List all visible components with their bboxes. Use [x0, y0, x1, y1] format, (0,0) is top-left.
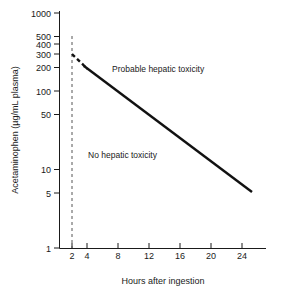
- y-tick-label-50: 50: [41, 110, 51, 120]
- x-tick-label-2: 2: [69, 251, 74, 261]
- nomogram-figure: 1000 500 400 300 200 100 50 10 5 1 2 4 8…: [0, 0, 281, 300]
- x-tick-label-4: 4: [84, 251, 89, 261]
- x-tick-label-8: 8: [115, 251, 120, 261]
- annotation-no-hepatic-toxicity: No hepatic toxicity: [88, 150, 158, 160]
- x-tick-label-12: 12: [144, 251, 154, 261]
- x-axis-title: Hours after ingestion: [121, 276, 204, 286]
- y-tick-label-400: 400: [36, 40, 51, 50]
- y-tick-label-5: 5: [46, 189, 51, 199]
- y-tick-label-1: 1: [46, 244, 51, 254]
- chart-canvas: 1000 500 400 300 200 100 50 10 5 1 2 4 8…: [0, 0, 281, 300]
- y-tick-label-300: 300: [36, 50, 51, 60]
- y-tick-label-1000: 1000: [31, 9, 51, 19]
- threshold-line-solid-segment: [84, 66, 252, 192]
- y-axis-title: Acetaminophen (µg/mL plasma): [10, 66, 20, 193]
- y-tick-label-10: 10: [41, 165, 51, 175]
- y-tick-label-200: 200: [36, 63, 51, 73]
- x-tick-label-24: 24: [237, 251, 247, 261]
- annotation-probable-hepatic-toxicity: Probable hepatic toxicity: [112, 64, 205, 74]
- x-tick-label-16: 16: [175, 251, 185, 261]
- y-tick-label-100: 100: [36, 87, 51, 97]
- x-tick-label-20: 20: [206, 251, 216, 261]
